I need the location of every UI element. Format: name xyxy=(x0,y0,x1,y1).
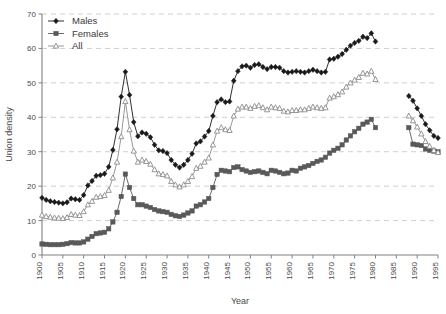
data-point-square xyxy=(290,168,294,172)
data-point-square xyxy=(106,227,110,231)
data-point-square xyxy=(244,169,248,173)
data-point-square xyxy=(115,210,119,214)
data-point-diamond xyxy=(52,199,57,204)
x-tick-label: 1915 xyxy=(98,261,107,279)
data-point-square xyxy=(127,185,131,189)
data-point-diamond xyxy=(177,165,182,170)
y-axis-title: Union density xyxy=(4,107,14,162)
data-point-square xyxy=(336,146,340,150)
data-point-square xyxy=(373,125,377,129)
data-point-square xyxy=(40,242,44,246)
data-point-square xyxy=(182,213,186,217)
x-tick-label: 1955 xyxy=(264,261,273,279)
y-tick-label: 30 xyxy=(27,148,36,157)
data-point-square xyxy=(144,204,148,208)
data-point-square xyxy=(52,242,56,246)
data-point-diamond xyxy=(252,62,257,67)
data-point-square xyxy=(227,169,231,173)
x-tick-label: 1920 xyxy=(118,261,127,279)
data-point-square xyxy=(61,242,65,246)
data-point-square xyxy=(236,165,240,169)
data-point-diamond xyxy=(319,70,324,75)
data-point-diamond xyxy=(302,70,307,75)
legend-label-males: Males xyxy=(72,15,98,26)
data-point-square xyxy=(352,130,356,134)
data-point-square xyxy=(302,165,306,169)
data-point-square xyxy=(215,172,219,176)
data-point-diamond xyxy=(211,113,216,118)
data-point-diamond xyxy=(227,99,232,104)
x-tick-label: 1985 xyxy=(389,261,398,279)
series-all xyxy=(39,68,440,220)
data-point-diamond xyxy=(48,199,53,204)
data-point-square xyxy=(248,170,252,174)
data-point-square xyxy=(340,143,344,147)
legend-label-females: Females xyxy=(72,28,109,39)
data-point-square xyxy=(190,209,194,213)
data-point-square xyxy=(165,210,169,214)
data-point-square xyxy=(277,170,281,174)
x-tick-label: 1925 xyxy=(139,261,148,279)
x-tick-label: 1965 xyxy=(306,261,315,279)
data-point-square xyxy=(332,148,336,152)
y-tick-label: 60 xyxy=(27,44,36,53)
data-point-square xyxy=(415,143,419,147)
data-point-diamond xyxy=(106,164,111,169)
data-point-square xyxy=(148,205,152,209)
x-tick-label: 1950 xyxy=(243,261,252,279)
data-point-triangle xyxy=(39,212,44,217)
data-point-square xyxy=(132,196,136,200)
data-point-square xyxy=(211,185,215,189)
x-tick-label: 1970 xyxy=(327,261,336,279)
data-point-square xyxy=(344,138,348,142)
data-point-triangle xyxy=(406,113,411,118)
data-point-triangle xyxy=(256,103,261,108)
data-point-square xyxy=(177,214,181,218)
data-point-diamond xyxy=(306,68,311,73)
data-point-diamond xyxy=(419,113,424,118)
data-point-diamond xyxy=(115,127,120,132)
data-point-triangle xyxy=(131,148,136,153)
data-point-diamond xyxy=(215,99,220,104)
data-point-triangle xyxy=(114,159,119,164)
x-axis-title: Year xyxy=(231,296,249,306)
data-point-square xyxy=(77,241,81,245)
legend: MalesFemalesAll xyxy=(48,15,109,51)
x-tick-label: 1905 xyxy=(56,261,65,279)
data-point-square xyxy=(186,211,190,215)
data-point-triangle xyxy=(219,125,224,130)
series-females xyxy=(40,117,440,247)
data-point-triangle xyxy=(210,142,215,147)
data-point-diamond xyxy=(98,172,103,177)
x-tick-label: 1995 xyxy=(431,261,440,279)
x-tick-label: 1900 xyxy=(35,261,44,279)
data-point-square xyxy=(157,209,161,213)
y-tick-label: 20 xyxy=(27,182,36,191)
data-point-square xyxy=(419,143,423,147)
data-point-square xyxy=(357,126,361,130)
y-tick-label: 10 xyxy=(27,217,36,226)
data-point-square xyxy=(369,117,373,121)
data-point-square xyxy=(207,196,211,200)
data-point-square xyxy=(86,237,90,241)
x-tick-label: 1935 xyxy=(181,261,190,279)
data-point-diamond xyxy=(373,39,378,44)
x-tick-label: 1945 xyxy=(223,261,232,279)
data-point-diamond xyxy=(54,18,59,23)
data-point-diamond xyxy=(127,92,132,97)
data-point-square xyxy=(257,169,261,173)
data-point-square xyxy=(298,166,302,170)
data-point-square xyxy=(169,212,173,216)
data-point-triangle xyxy=(206,155,211,160)
data-point-diamond xyxy=(256,62,261,67)
data-point-triangle xyxy=(110,175,115,180)
data-point-square xyxy=(98,231,102,235)
data-point-square xyxy=(54,31,58,35)
data-point-diamond xyxy=(327,57,332,62)
data-point-square xyxy=(252,169,256,173)
series-line xyxy=(42,33,375,203)
y-tick-label: 50 xyxy=(27,79,36,88)
data-point-square xyxy=(44,242,48,246)
data-point-square xyxy=(202,200,206,204)
data-point-diamond xyxy=(119,94,124,99)
